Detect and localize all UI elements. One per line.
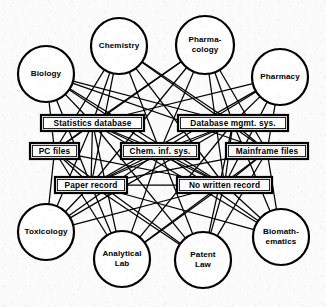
node-label-biology: Biology — [31, 69, 62, 78]
edge-toxicology-to-pc-files — [49, 159, 54, 204]
node-chem-inf-sys[interactable]: Chem. inf. sys. — [121, 143, 199, 159]
node-no-written-record[interactable]: No written record — [177, 177, 272, 193]
node-biology[interactable]: Biology — [18, 46, 74, 102]
node-label-chem-inf-sys: Chem. inf. sys. — [130, 146, 191, 156]
edge-pc-files-to-paper-record — [63, 159, 82, 177]
node-chemistry[interactable]: Chemistry — [91, 18, 147, 74]
edge-biology-to-statistics-database — [65, 94, 85, 115]
edge-biomathematics-to-paper-record — [120, 193, 254, 230]
node-label-statistics-database: Statistics database — [53, 118, 131, 128]
node-paper-record[interactable]: Paper record — [55, 177, 127, 193]
node-biomathematics[interactable]: Biomath-ematics — [253, 209, 309, 265]
node-label-mainframe-files: Mainframe files — [236, 146, 299, 156]
node-label-pc-files: PC files — [39, 146, 71, 156]
node-label-pharmacy: Pharmacy — [260, 72, 300, 81]
edge-database-mgmt-sys-to-mainframe-files — [243, 131, 258, 143]
node-label-database-mgmt-sys: Database mgmt. sys. — [190, 118, 275, 128]
node-pharmacology[interactable]: Pharma-cology — [176, 16, 234, 74]
node-analytical-lab[interactable]: AnalyticalLab — [94, 231, 150, 287]
node-label-biomathematics: Biomath-ematics — [263, 227, 299, 245]
node-pc-files[interactable]: PC files — [30, 143, 79, 159]
node-patent-law[interactable]: PatentLaw — [175, 232, 231, 288]
node-label-no-written-record: No written record — [189, 180, 260, 190]
node-database-mgmt-sys[interactable]: Database mgmt. sys. — [178, 115, 288, 131]
node-mainframe-files[interactable]: Mainframe files — [226, 143, 308, 159]
node-layer: BiologyChemistryPharma-cologyPharmacyTox… — [18, 16, 309, 288]
node-label-pharmacology: Pharma-cology — [188, 35, 221, 53]
node-label-chemistry: Chemistry — [99, 41, 140, 50]
node-statistics-database[interactable]: Statistics database — [41, 115, 144, 131]
node-pharmacy[interactable]: Pharmacy — [252, 49, 308, 105]
edge-toxicology-to-paper-record — [65, 193, 83, 212]
node-toxicology[interactable]: Toxicology — [18, 204, 74, 260]
diagram-canvas: BiologyChemistryPharma-cologyPharmacyTox… — [0, 0, 326, 307]
network-diagram: BiologyChemistryPharma-cologyPharmacyTox… — [0, 0, 326, 307]
node-label-toxicology: Toxicology — [24, 227, 68, 236]
node-label-paper-record: Paper record — [65, 180, 118, 190]
edge-statistics-database-to-paper-record — [91, 131, 92, 177]
